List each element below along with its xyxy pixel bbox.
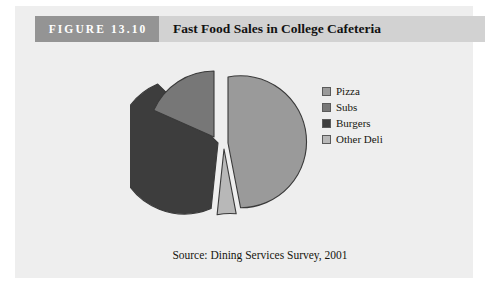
figure-container: FIGURE 13.10 Fast Food Sales in College … (0, 0, 490, 291)
pie-chart (130, 51, 310, 236)
legend-swatch-icon (322, 135, 331, 144)
legend-item-subs[interactable]: Subs (322, 100, 432, 115)
legend-swatch-icon (322, 87, 331, 96)
figure-panel: FIGURE 13.10 Fast Food Sales in College … (15, 6, 473, 278)
legend-swatch-icon (322, 103, 331, 112)
figure-title: Fast Food Sales in College Cafeteria (173, 16, 381, 42)
legend-label: Pizza (336, 86, 360, 97)
chart-plot-area: Pizza Subs Burgers Other Deli Source: Di… (35, 46, 485, 278)
legend-label: Other Deli (336, 134, 383, 145)
source-note: Source: Dining Services Survey, 2001 (35, 249, 485, 261)
legend-label: Burgers (336, 118, 371, 129)
legend-item-pizza[interactable]: Pizza (322, 84, 432, 99)
pie-chart-svg (130, 51, 310, 236)
legend-item-other-deli[interactable]: Other Deli (322, 132, 432, 147)
legend-swatch-icon (322, 119, 331, 128)
chart-legend: Pizza Subs Burgers Other Deli (322, 84, 432, 148)
figure-number-block: FIGURE 13.10 (35, 16, 159, 42)
legend-item-burgers[interactable]: Burgers (322, 116, 432, 131)
figure-number-label: FIGURE 13.10 (47, 23, 148, 35)
legend-label: Subs (336, 102, 357, 113)
pie-slice-pizza[interactable] (228, 76, 307, 208)
